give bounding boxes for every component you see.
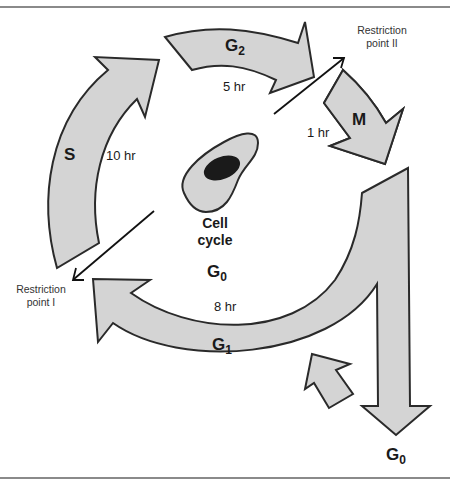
phase-label-g1: G1 (212, 335, 232, 357)
restriction-point-ii-label: Restriction point II (352, 24, 412, 50)
phase-label-m: M (352, 110, 366, 130)
cell-icon (182, 133, 258, 212)
duration-g2: 5 hr (223, 79, 245, 94)
exit-g0-label: G0 (386, 445, 406, 467)
duration-s: 10 hr (106, 148, 136, 163)
cell-cycle-label: Cell cycle (193, 215, 237, 249)
center-g0-label: G0 (207, 262, 227, 284)
duration-g1: 8 hr (214, 299, 236, 314)
g1-phase-arrow (93, 168, 430, 435)
phase-label-s: S (64, 145, 75, 165)
restriction-point-i-label: Restriction point I (12, 283, 70, 309)
duration-m: 1 hr (307, 125, 329, 140)
phase-label-g2: G2 (225, 36, 245, 58)
g0-reentry-arrow (305, 354, 353, 408)
